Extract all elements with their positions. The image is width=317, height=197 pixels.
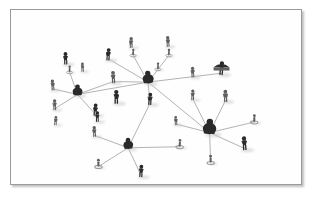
figure-shadow: [190, 76, 200, 79]
picture-frame: [10, 9, 302, 185]
figure-shadow: [241, 148, 254, 152]
social-network-figurine-illustration: [11, 10, 301, 184]
figure-shadow: [173, 124, 182, 127]
figure-shadow: [165, 45, 175, 48]
figure-shadow: [92, 135, 102, 138]
canvas-background: [11, 10, 301, 184]
screenshot-root: [0, 0, 317, 197]
figure-shadow: [50, 89, 60, 92]
figure-shadow: [110, 81, 122, 85]
picture-canvas-area: [11, 10, 301, 184]
